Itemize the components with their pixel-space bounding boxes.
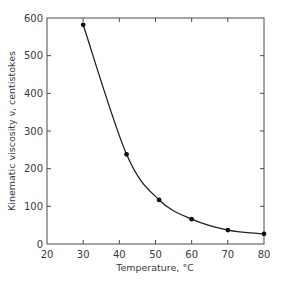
x-tick-label: 30 xyxy=(77,249,90,260)
data-markers xyxy=(81,22,267,236)
data-point-marker xyxy=(189,217,194,222)
data-point-marker xyxy=(81,22,86,27)
y-tick-label: 400 xyxy=(24,88,43,99)
y-tick-label: 600 xyxy=(24,13,43,24)
y-tick-label: 100 xyxy=(24,201,43,212)
x-tick-label: 50 xyxy=(149,249,162,260)
x-tick-labels: 20304050607080 xyxy=(41,249,271,260)
y-tick-label: 500 xyxy=(24,50,43,61)
data-point-marker xyxy=(225,228,230,233)
x-tick-label: 40 xyxy=(113,249,126,260)
axis-ticks xyxy=(47,18,264,244)
viscosity-curve xyxy=(83,25,264,234)
viscosity-temperature-chart: 20304050607080 0100200300400500600 Tempe… xyxy=(0,0,282,283)
x-tick-label: 60 xyxy=(185,249,198,260)
x-tick-label: 20 xyxy=(41,249,54,260)
y-tick-labels: 0100200300400500600 xyxy=(24,13,43,250)
data-point-marker xyxy=(157,198,162,203)
data-point-marker xyxy=(262,231,267,236)
y-tick-label: 0 xyxy=(37,239,43,250)
y-axis-label: Kinematic viscosity ν, centistokes xyxy=(6,51,17,211)
y-tick-label: 300 xyxy=(24,126,43,137)
plot-frame xyxy=(47,18,264,244)
x-tick-label: 70 xyxy=(221,249,234,260)
y-tick-label: 200 xyxy=(24,163,43,174)
data-point-marker xyxy=(124,152,129,157)
x-tick-label: 80 xyxy=(258,249,271,260)
x-axis-label: Temperature, °C xyxy=(115,262,194,273)
